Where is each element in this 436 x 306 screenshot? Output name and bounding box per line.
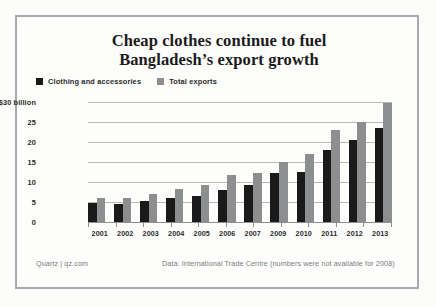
bar-group[interactable] xyxy=(140,102,157,222)
bar-total-exports xyxy=(123,198,132,222)
x-axis-tick-mark xyxy=(363,222,364,227)
legend-swatch-icon xyxy=(36,78,43,85)
bar-group[interactable] xyxy=(323,102,340,222)
y-axis-tick-label: $30 billion xyxy=(0,98,36,107)
bar-clothing-and-accessories xyxy=(218,190,227,222)
x-axis-tick-mark xyxy=(336,222,337,227)
x-axis-tick-mark xyxy=(281,222,282,227)
x-axis-tick-mark xyxy=(116,222,117,227)
bar-group[interactable] xyxy=(218,102,235,222)
bar-clothing-and-accessories xyxy=(244,185,253,222)
bar-clothing-and-accessories xyxy=(349,140,358,222)
chart-title-line-1: Cheap clothes continue to fuel xyxy=(17,31,421,50)
chart-legend: Clothing and accessoriesTotal exports xyxy=(36,77,217,86)
bar-total-exports xyxy=(227,175,236,222)
y-axis-tick-label: 10 xyxy=(28,178,36,187)
bar-total-exports xyxy=(279,162,288,222)
bar-total-exports xyxy=(175,189,184,222)
x-axis-tick-label: 2004 xyxy=(165,229,189,238)
bar-clothing-and-accessories xyxy=(323,150,332,222)
x-axis-tick-mark xyxy=(253,222,254,227)
bar-group[interactable] xyxy=(114,102,131,222)
bar-total-exports xyxy=(253,173,262,222)
bar-group[interactable] xyxy=(88,102,105,222)
bar-clothing-and-accessories xyxy=(166,198,175,222)
x-axis-tick-mark xyxy=(198,222,199,227)
x-axis-tick-mark xyxy=(143,222,144,227)
chart-screenshot: Cheap clothes continue to fuel Banglades… xyxy=(0,0,436,306)
bar-clothing-and-accessories xyxy=(375,128,384,222)
bar-total-exports xyxy=(383,103,392,222)
x-axis-tick-label: 2006 xyxy=(216,229,240,238)
chart-title: Cheap clothes continue to fuel Banglades… xyxy=(17,31,421,69)
bar-group[interactable] xyxy=(375,102,392,222)
x-axis-tick-label: 2002 xyxy=(114,229,138,238)
x-axis-tick-label: 2009 xyxy=(267,229,291,238)
x-axis-tick-label: 2007 xyxy=(241,229,265,238)
legend-item-label: Clothing and accessories xyxy=(48,77,141,86)
bar-group[interactable] xyxy=(349,102,366,222)
bar-group[interactable] xyxy=(244,102,261,222)
x-axis-tick-label: 2005 xyxy=(190,229,214,238)
x-axis-tick-label: 2003 xyxy=(139,229,163,238)
y-axis-tick-label: 5 xyxy=(32,198,36,207)
bar-group[interactable] xyxy=(192,102,209,222)
x-axis-tick-label: 2013 xyxy=(369,229,393,238)
plot-area: 0510152025$30 billion 200120022003200420… xyxy=(36,102,392,237)
x-axis-labels: 2001200220032004200520062007200920102011… xyxy=(88,229,392,238)
bar-group[interactable] xyxy=(166,102,183,222)
y-axis-labels: 0510152025$30 billion xyxy=(36,102,88,237)
x-axis-tick-label: 2010 xyxy=(292,229,316,238)
chart-frame: Cheap clothes continue to fuel Banglades… xyxy=(15,15,419,289)
x-axis-tick-label: 2012 xyxy=(343,229,367,238)
bar-clothing-and-accessories xyxy=(114,204,123,222)
legend-item[interactable]: Total exports xyxy=(157,77,217,86)
bar-clothing-and-accessories xyxy=(270,173,279,222)
x-axis-tick-mark xyxy=(226,222,227,227)
legend-swatch-icon xyxy=(157,78,164,85)
legend-item[interactable]: Clothing and accessories xyxy=(36,77,141,86)
bar-group[interactable] xyxy=(297,102,314,222)
y-axis-tick-label: 20 xyxy=(28,138,36,147)
bar-total-exports xyxy=(97,198,106,222)
source-data-note: Data: International Trade Centre (number… xyxy=(162,259,395,268)
x-axis-tick-mark xyxy=(88,222,89,227)
bar-clothing-and-accessories xyxy=(192,196,201,222)
y-axis-tick-label: 25 xyxy=(28,118,36,127)
bar-total-exports xyxy=(331,130,340,222)
y-axis-tick-label: 0 xyxy=(32,218,36,227)
bar-groups xyxy=(88,102,392,222)
bar-group[interactable] xyxy=(270,102,287,222)
x-axis-tick-mark xyxy=(308,222,309,227)
x-axis-tick-mark xyxy=(171,222,172,227)
x-axis-tick-label: 2001 xyxy=(88,229,112,238)
bar-clothing-and-accessories xyxy=(140,201,149,222)
y-axis-tick-label: 15 xyxy=(28,158,36,167)
source-credit: Quartz | qz.com xyxy=(36,259,88,268)
bar-clothing-and-accessories xyxy=(88,203,97,222)
x-axis-tick-label: 2011 xyxy=(318,229,342,238)
chart-title-line-2: Bangladesh’s export growth xyxy=(17,50,421,69)
legend-item-label: Total exports xyxy=(169,77,217,86)
bar-total-exports xyxy=(149,194,158,222)
x-axis-ticks xyxy=(88,222,392,227)
bar-total-exports xyxy=(201,185,210,222)
bar-total-exports xyxy=(357,122,366,222)
bar-clothing-and-accessories xyxy=(297,172,306,222)
bar-total-exports xyxy=(305,154,314,222)
x-axis-tick-mark xyxy=(391,222,392,227)
